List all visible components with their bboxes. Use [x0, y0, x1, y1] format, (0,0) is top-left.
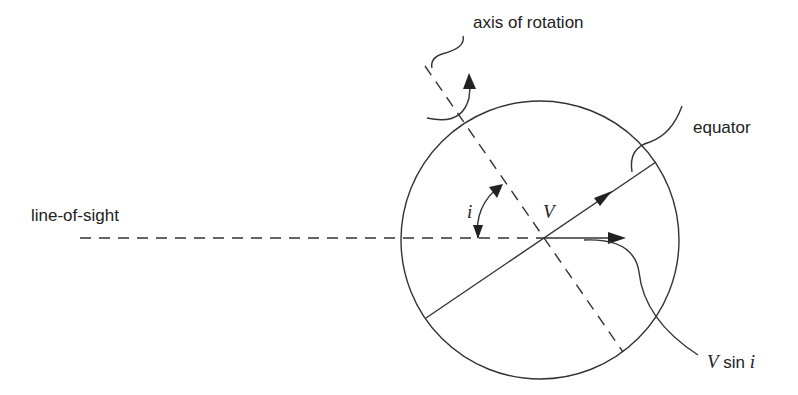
v-sin-i-label-i: i: [750, 351, 755, 372]
inclination-label: i: [467, 201, 472, 222]
rotation-axis-line: [425, 66, 623, 352]
velocity-arrowhead-icon: [594, 191, 612, 206]
line-of-sight-label: line-of-sight: [31, 206, 119, 225]
equator-line: [426, 162, 656, 318]
equator-leader: [631, 106, 682, 172]
rotation-arrowhead-icon: [463, 73, 476, 89]
equator-label: equator: [693, 118, 751, 137]
inclination-arrowhead-bottom-icon: [473, 225, 483, 239]
v-sin-i-label: V sin i: [707, 351, 755, 372]
v-sin-i-label-sin: sin: [719, 353, 750, 372]
axis-leader: [432, 36, 464, 68]
rotation-diagram: axis of rotation equator line-of-sight V…: [0, 0, 798, 395]
rotation-arrow: [427, 88, 470, 120]
v-sin-i-leader: [584, 240, 698, 355]
velocity-label: V: [543, 201, 557, 222]
axis-of-rotation-label: axis of rotation: [473, 13, 584, 32]
inclination-arrowhead-top-icon: [489, 184, 503, 198]
